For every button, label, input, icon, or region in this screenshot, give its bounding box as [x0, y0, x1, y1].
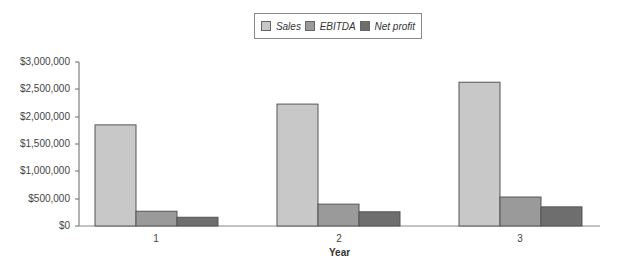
y-tick-label: $1,000,000 [0, 165, 70, 176]
y-axis-ticks [75, 62, 79, 226]
bar-ebitda-year-1 [136, 211, 177, 226]
x-tick-label: 2 [329, 233, 349, 244]
bar-ebitda-year-3 [500, 197, 541, 226]
y-tick-label: $1,500,000 [0, 138, 70, 149]
bar-sales-year-2 [277, 104, 318, 226]
x-axis-title: Year [329, 247, 350, 258]
bar-sales-year-1 [95, 125, 136, 226]
x-tick-label: 1 [146, 233, 166, 244]
y-tick-label: $500,000 [0, 193, 70, 204]
chart-plot-area [0, 0, 620, 269]
y-tick-label: $3,000,000 [0, 56, 70, 67]
bar-net-profit-year-3 [541, 207, 582, 226]
bar-net-profit-year-1 [177, 217, 218, 226]
y-tick-label: $2,000,000 [0, 111, 70, 122]
x-tick-label: 3 [510, 233, 530, 244]
y-tick-label: $0 [0, 220, 70, 231]
bar-net-profit-year-2 [359, 212, 400, 226]
bar-ebitda-year-2 [318, 204, 359, 226]
bar-sales-year-3 [459, 82, 500, 226]
bar-series-group [95, 82, 582, 226]
y-tick-label: $2,500,000 [0, 83, 70, 94]
